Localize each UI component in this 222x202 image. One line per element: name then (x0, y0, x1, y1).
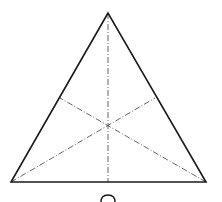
median-from-bottom-left (11, 98, 155, 182)
cropped-label-arc (101, 195, 115, 202)
median-from-bottom-right (60, 98, 206, 182)
triangle-diagram (0, 0, 222, 202)
